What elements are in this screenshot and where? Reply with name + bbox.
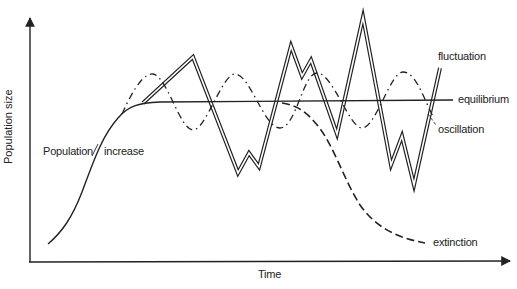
label-fluctuation: fluctuation — [438, 50, 486, 62]
label-population: Population — [43, 145, 93, 157]
x-axis — [29, 261, 510, 262]
label-increase: increase — [104, 145, 144, 157]
x-axis-label: Time — [258, 268, 281, 280]
equilibrium-curve — [48, 100, 453, 244]
label-equilibrium: equilibrium — [458, 93, 509, 105]
y-axis-label: Population size — [2, 89, 14, 164]
label-oscillation: oscillation — [438, 123, 484, 135]
label-extinction: extinction — [433, 236, 477, 248]
extinction-curve — [282, 103, 425, 243]
